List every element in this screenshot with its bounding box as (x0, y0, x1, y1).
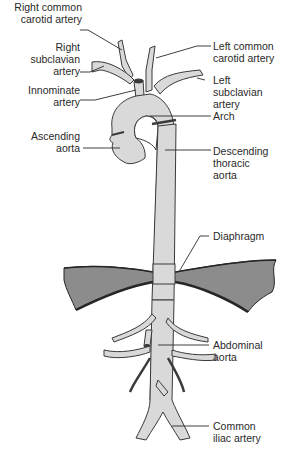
left-renal-branch (104, 346, 150, 358)
left-gonadal-artery (130, 358, 150, 392)
label-ascending-aorta: Ascending aorta (4, 130, 80, 154)
right-renal-branch (172, 350, 216, 361)
label-left-subclavian-artery: Left subclavian artery (213, 74, 263, 110)
label-descending-thoracic-aorta: Descending thoracic aorta (213, 145, 268, 181)
superior-mesenteric-artery (144, 330, 152, 346)
label-common-iliac-artery: Common iliac artery (213, 420, 261, 444)
label-right-common-carotid-artery: Right common carotid artery (4, 1, 82, 25)
label-innominate-artery: Innominate artery (4, 84, 80, 108)
left-subclavian-artery (154, 70, 203, 94)
label-left-common-carotid-artery: Left common carotid artery (213, 40, 274, 64)
left-common-carotid-artery (146, 46, 155, 92)
label-right-subclavian-artery: Right subclavian artery (4, 41, 80, 77)
label-abdominal-aorta: Abdominal aorta (213, 339, 263, 363)
label-arch: Arch (213, 110, 235, 122)
label-diaphragm: Diaphragm (213, 230, 264, 242)
